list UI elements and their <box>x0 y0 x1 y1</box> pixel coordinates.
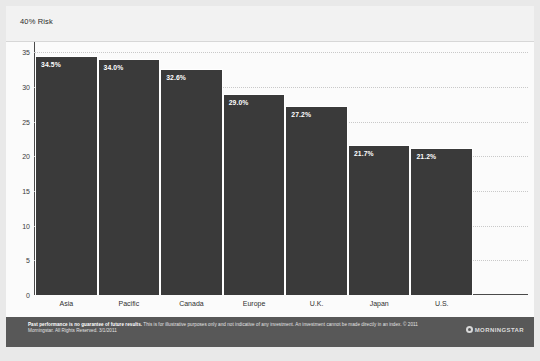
disclaimer-bold: Past performance is no guarantee of futu… <box>28 322 142 327</box>
category-label-japan: Japan <box>348 300 411 307</box>
bar-value-label: 32.6% <box>166 74 186 81</box>
bar-slot: 32.6% <box>160 42 223 295</box>
bar-value-label: 27.2% <box>291 111 311 118</box>
y-tick-label: 10 <box>22 222 30 229</box>
y-tick-label: 30 <box>22 84 30 91</box>
morningstar-logo: MORNINGSTAR <box>466 326 524 333</box>
chart-panel: 40% Risk 05101520253035 34.5%34.0%32.6%2… <box>6 6 534 347</box>
chart-page: 40% Risk 05101520253035 34.5%34.0%32.6%2… <box>0 0 540 361</box>
bar-slot: 27.2% <box>285 42 348 295</box>
category-label-europe: Europe <box>223 300 286 307</box>
bar-slot: 21.2% <box>410 42 473 295</box>
y-tick-label: 35 <box>22 49 30 56</box>
bar-slot: 34.0% <box>98 42 161 295</box>
disclaimer-footer: Past performance is no guarantee of futu… <box>6 317 534 347</box>
bar-series: 34.5%34.0%32.6%29.0%27.2%21.7%21.2% <box>35 42 473 295</box>
disclaimer-rest: This is for illustrative purposes only a… <box>142 322 340 327</box>
category-label-u-k: U.K. <box>285 300 348 307</box>
morningstar-wordmark: MORNINGSTAR <box>475 327 524 333</box>
disclaimer-text: Past performance is no guarantee of futu… <box>28 322 428 335</box>
bar-value-label: 21.2% <box>416 153 436 160</box>
bar-u-s[interactable]: 21.2% <box>410 148 473 295</box>
y-axis-labels: 05101520253035 <box>6 42 34 295</box>
bar-slot: 21.7% <box>348 42 411 295</box>
y-tick-label: 25 <box>22 118 30 125</box>
category-label-canada: Canada <box>160 300 223 307</box>
bar-value-label: 29.0% <box>229 99 249 106</box>
chart-header-strip: 40% Risk <box>6 6 534 42</box>
category-label-pacific: Pacific <box>98 300 161 307</box>
bar-canada[interactable]: 32.6% <box>160 69 223 295</box>
bar-u-k[interactable]: 27.2% <box>285 106 348 295</box>
bar-pacific[interactable]: 34.0% <box>98 59 161 295</box>
category-label-asia: Asia <box>35 300 98 307</box>
bar-value-label: 21.7% <box>354 150 374 157</box>
morningstar-mark-icon <box>466 326 473 333</box>
plot-area: 05101520253035 34.5%34.0%32.6%29.0%27.2%… <box>6 42 534 310</box>
y-tick-label: 15 <box>22 188 30 195</box>
y-tick-label: 20 <box>22 153 30 160</box>
chart-title: 40% Risk <box>20 17 53 26</box>
bar-asia[interactable]: 34.5% <box>35 56 98 295</box>
y-tick-label: 0 <box>26 292 30 299</box>
category-label-u-s: U.S. <box>410 300 473 307</box>
bar-value-label: 34.0% <box>104 64 124 71</box>
bar-japan[interactable]: 21.7% <box>348 145 411 295</box>
y-tick-label: 5 <box>26 257 30 264</box>
bar-slot: 34.5% <box>35 42 98 295</box>
bar-slot: 29.0% <box>223 42 286 295</box>
x-axis-categories: AsiaPacificCanadaEuropeU.K.JapanU.S. <box>35 300 473 307</box>
bar-value-label: 34.5% <box>41 61 61 68</box>
bar-europe[interactable]: 29.0% <box>223 94 286 295</box>
